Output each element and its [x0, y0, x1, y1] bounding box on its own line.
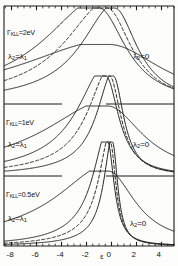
lambda-eq-zero: =0: [140, 140, 149, 149]
curve-label-lambda2-eq-0-bottom: λ2=0: [130, 219, 146, 228]
lambda-eq-zero: =0: [137, 219, 146, 228]
lambda-eq: =λ: [15, 214, 24, 223]
panel-label-gamma-bottom: ΓKLL=0.5eV: [6, 191, 40, 199]
curve-broad-background: [4, 171, 174, 231]
lambda-subscript-2: 1: [24, 143, 27, 149]
x-tick-label: -4: [57, 250, 64, 259]
curve-label-lambda2-eq-0-middle: λ2=0: [133, 140, 149, 149]
lambda-eq-zero: =0: [140, 52, 149, 61]
x-tick-label: -2: [82, 250, 89, 259]
panel-label-gamma-top: ΓKLL=2eV: [7, 29, 35, 37]
gamma-subscript-top: KLL: [11, 31, 19, 37]
x-tick-label: -8: [7, 250, 14, 259]
lambda-eq: =λ: [15, 52, 24, 61]
panel-curves-1: [4, 8, 174, 90]
gamma-value-top: =2eV: [19, 28, 35, 37]
lineshape-plot: [0, 0, 178, 266]
lambda-subscript-2: 1: [24, 217, 27, 223]
curve-intermediate: [4, 8, 174, 88]
gamma-subscript-bottom: KLL: [10, 193, 18, 199]
curve-label-lambda2-eq-lambda1-top: λ2=λ1: [8, 52, 27, 61]
panel-label-gamma-middle: ΓKLL=1eV: [6, 119, 34, 127]
gamma-value-bottom: =0.5eV: [18, 190, 40, 199]
curve--2-1: [4, 8, 174, 89]
x-tick-label: 2: [132, 250, 136, 259]
x-tick-label: -6: [32, 250, 39, 259]
x-tick-label: 0: [107, 250, 111, 259]
x-tick-label: 4: [157, 250, 161, 259]
figure-container: ΓKLL=2eV λ2=λ1 λ2=0 ΓKLL=1eV λ2=λ1 λ2=0 …: [0, 0, 178, 266]
curve-label-lambda2-eq-lambda1-middle: λ2=λ1: [8, 140, 27, 149]
gamma-subscript-middle: KLL: [10, 121, 18, 127]
x-axis-title: ε: [100, 252, 103, 261]
lambda-eq: =λ: [15, 140, 24, 149]
curve-label-lambda2-eq-lambda1-bottom: λ2=λ1: [8, 214, 27, 223]
gamma-value-middle: =1eV: [18, 118, 34, 127]
lambda-subscript-2: 1: [24, 55, 27, 61]
curve--2-0: [4, 8, 174, 90]
curve-label-lambda2-eq-0-top: λ2=0: [133, 52, 149, 61]
